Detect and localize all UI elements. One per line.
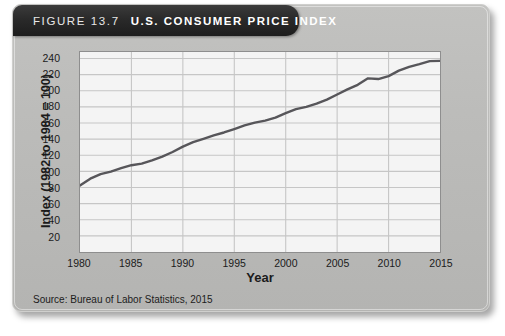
x-tick-1985: 1985 bbox=[119, 257, 142, 269]
figure-card: FIGURE 13.7 U.S. CONSUMER PRICE INDEX In… bbox=[12, 4, 490, 312]
x-tick-2010: 2010 bbox=[378, 257, 401, 269]
y-tick-120: 120 bbox=[28, 149, 60, 161]
y-tick-20: 20 bbox=[28, 231, 60, 243]
x-tick-1980: 1980 bbox=[67, 257, 90, 269]
y-tick-140: 140 bbox=[28, 133, 60, 145]
figure-number-label: FIGURE 13.7 bbox=[33, 15, 120, 27]
figure-root: FIGURE 13.7 U.S. CONSUMER PRICE INDEX In… bbox=[0, 0, 505, 336]
y-tick-160: 160 bbox=[28, 117, 60, 129]
cpi-line-chart bbox=[80, 52, 440, 252]
y-tick-60: 60 bbox=[28, 198, 60, 210]
x-tick-2000: 2000 bbox=[274, 257, 297, 269]
x-axis-title: Year bbox=[79, 270, 441, 285]
source-note: Source: Bureau of Labor Statistics, 2015 bbox=[33, 294, 213, 305]
x-tick-1995: 1995 bbox=[222, 257, 245, 269]
chart-area: Index (1982 to 1984 = 100) 2040608010012… bbox=[13, 36, 491, 313]
y-tick-240: 240 bbox=[28, 52, 60, 64]
figure-title-label: U.S. CONSUMER PRICE INDEX bbox=[131, 15, 338, 27]
y-tick-200: 200 bbox=[28, 84, 60, 96]
figure-title-bar: FIGURE 13.7 U.S. CONSUMER PRICE INDEX bbox=[13, 5, 299, 36]
x-tick-2005: 2005 bbox=[326, 257, 349, 269]
y-tick-100: 100 bbox=[28, 166, 60, 178]
y-tick-80: 80 bbox=[28, 182, 60, 194]
x-tick-1990: 1990 bbox=[171, 257, 194, 269]
x-tick-2015: 2015 bbox=[429, 257, 452, 269]
plot-area bbox=[79, 51, 441, 253]
y-tick-40: 40 bbox=[28, 214, 60, 226]
y-tick-220: 220 bbox=[28, 68, 60, 80]
y-tick-180: 180 bbox=[28, 100, 60, 112]
